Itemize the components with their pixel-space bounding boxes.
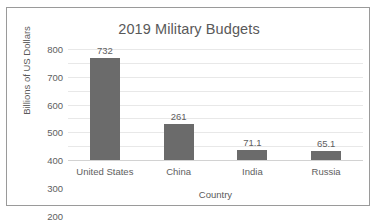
y-axis-title: Billions of US Dollars (21, 16, 32, 126)
y-tick-label: 600 (31, 99, 63, 110)
bar[interactable] (164, 124, 194, 160)
bar[interactable] (90, 58, 120, 160)
y-tick-label: 500 (31, 127, 63, 138)
y-tick-label: 800 (31, 44, 63, 55)
x-tick-label: United States (76, 166, 133, 177)
x-tick-label: China (166, 166, 191, 177)
bar[interactable] (311, 151, 341, 160)
y-tick-label: 200 (31, 210, 63, 221)
x-axis-title: Country (68, 189, 363, 200)
x-tick-label: Russia (312, 166, 341, 177)
chart-container: 2019 Military Budgets Billions of US Dol… (6, 7, 370, 206)
y-tick-label: 300 (31, 182, 63, 193)
bar-value-label: 71.1 (243, 137, 262, 148)
bar-group: 732United States (68, 49, 142, 160)
bar-group: 65.1Russia (289, 49, 363, 160)
chart-title: 2019 Military Budgets (7, 21, 371, 37)
bar-group: 71.1India (216, 49, 290, 160)
plot-area: 0100200300400500600700800732United State… (68, 49, 363, 160)
bar-value-label: 261 (171, 111, 187, 122)
y-tick-label: 700 (31, 71, 63, 82)
y-tick-label: 400 (31, 155, 63, 166)
bar[interactable] (237, 150, 267, 160)
x-axis-line: 0 (68, 160, 363, 161)
bar-value-label: 65.1 (317, 138, 336, 149)
bar-value-label: 732 (97, 45, 113, 56)
bar-group: 261China (142, 49, 216, 160)
x-tick-label: India (242, 166, 263, 177)
